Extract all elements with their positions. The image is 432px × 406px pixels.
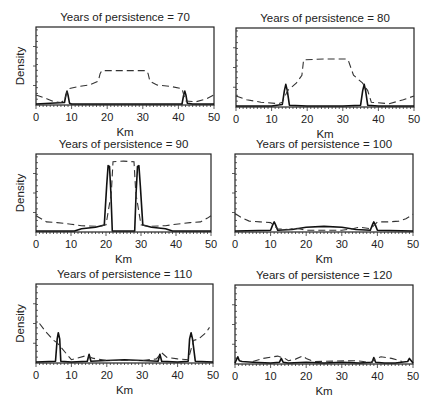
x-tick-label: 20	[300, 238, 312, 250]
dashed-density-line	[36, 71, 214, 103]
x-tick-label: 10	[264, 370, 276, 382]
x-tick-label: 20	[101, 369, 113, 381]
panel-title: Years of persistence = 100	[256, 138, 392, 150]
x-tick-label: 40	[171, 369, 183, 381]
plot-frame	[36, 284, 213, 363]
x-tick-label: 10	[264, 238, 276, 250]
x-tick-label: 20	[100, 238, 112, 250]
y-axis-label: Density	[14, 304, 26, 343]
x-tick-label: 30	[137, 111, 149, 123]
panel-title: Years of persistence = 120	[256, 269, 392, 281]
plot-frame	[235, 285, 413, 364]
x-tick-label: 30	[135, 238, 147, 250]
x-tick-label: 50	[208, 111, 220, 123]
x-tick-label: 10	[65, 111, 77, 123]
plot-frame	[36, 27, 214, 105]
x-tick-label: 50	[205, 238, 217, 250]
chart-panel-6: Years of persistence = 12001020304050Km	[232, 269, 419, 397]
panel-title: Years of persistence = 80	[260, 12, 390, 24]
solid-density-line	[36, 166, 211, 231]
solid-density-line	[235, 222, 413, 231]
dashed-density-line	[236, 59, 414, 104]
x-tick-label: 20	[300, 370, 312, 382]
x-tick-label: 10	[65, 238, 77, 250]
x-tick-label: 20	[301, 113, 313, 125]
x-axis-label: Km	[315, 253, 332, 265]
x-tick-label: 40	[372, 113, 384, 125]
x-tick-label: 30	[336, 238, 348, 250]
x-tick-label: 10	[265, 113, 277, 125]
x-tick-label: 0	[33, 111, 39, 123]
panel-title: Years of persistence = 110	[57, 268, 192, 280]
x-axis-label: Km	[116, 126, 133, 138]
x-tick-label: 0	[232, 238, 238, 250]
panel-title: Years of persistence = 90	[59, 138, 189, 150]
x-tick-label: 40	[371, 238, 383, 250]
dashed-density-line	[235, 214, 413, 231]
x-tick-label: 10	[65, 369, 77, 381]
chart-panel-4: Years of persistence = 10001020304050Km	[232, 138, 419, 265]
x-axis-label: Km	[115, 253, 132, 265]
panel-title: Years of persistence = 70	[60, 11, 190, 23]
plot-frame	[235, 154, 413, 232]
solid-density-line	[36, 91, 214, 104]
x-tick-label: 0	[232, 370, 238, 382]
dashed-density-line	[40, 324, 210, 361]
y-axis-label: Density	[14, 47, 26, 86]
plot-frame	[36, 154, 211, 232]
chart-panel-5: Years of persistence = 11001020304050KmD…	[14, 268, 219, 396]
x-tick-label: 0	[233, 113, 239, 125]
chart-panel-3: Years of persistence = 9001020304050KmDe…	[14, 138, 217, 265]
x-tick-label: 40	[371, 370, 383, 382]
x-tick-label: 40	[172, 111, 184, 123]
chart-panel-2: Years of persistence = 8001020304050Km	[233, 12, 420, 140]
y-axis-label: Density	[14, 174, 26, 213]
solid-density-line	[36, 333, 213, 362]
x-tick-label: 30	[136, 369, 148, 381]
x-tick-label: 50	[407, 370, 419, 382]
x-tick-label: 30	[337, 113, 349, 125]
x-tick-label: 30	[336, 370, 348, 382]
x-axis-label: Km	[315, 385, 332, 397]
figure-panels: Years of persistence = 7001020304050KmDe…	[0, 0, 432, 406]
x-tick-label: 50	[207, 369, 219, 381]
solid-density-line	[235, 357, 413, 363]
x-tick-label: 0	[33, 369, 39, 381]
x-tick-label: 0	[33, 238, 39, 250]
plot-frame	[236, 28, 414, 107]
x-axis-label: Km	[116, 384, 133, 396]
x-tick-label: 40	[170, 238, 182, 250]
x-tick-label: 50	[408, 113, 420, 125]
x-tick-label: 20	[101, 111, 113, 123]
dashed-density-line	[36, 161, 211, 226]
x-tick-label: 50	[407, 238, 419, 250]
chart-panel-1: Years of persistence = 7001020304050KmDe…	[14, 11, 220, 138]
